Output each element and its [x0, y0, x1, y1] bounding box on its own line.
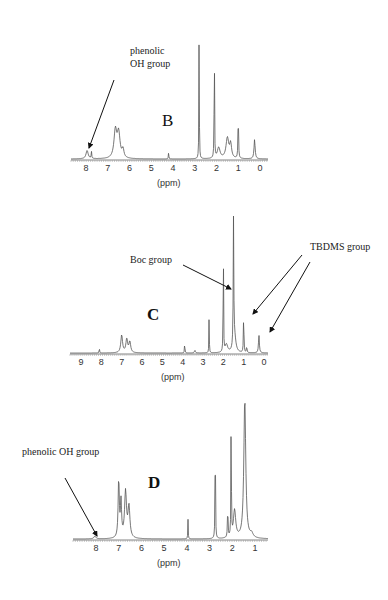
spectrum-panel-b: 876543210 phenolic OH group B (ppm) [71, 45, 268, 188]
x-tick-label: 1 [236, 163, 241, 173]
x-tick-label: 8 [99, 357, 104, 367]
x-tick-label: 1 [252, 543, 257, 553]
x-axis-title-c: (ppm) [161, 372, 185, 382]
arrow-icon [270, 262, 310, 332]
x-tick-label: 7 [119, 357, 124, 367]
x-tick-label: 6 [139, 543, 144, 553]
arrow-icon [65, 478, 97, 536]
panel-label-b: B [162, 111, 173, 130]
panel-label-c: C [147, 305, 159, 324]
x-tick-label: 6 [127, 163, 132, 173]
x-tick-label: 1 [241, 357, 246, 367]
x-tick-label: 5 [160, 357, 165, 367]
x-axis-title-b: (ppm) [157, 178, 181, 188]
x-tick-label: 2 [230, 543, 235, 553]
annotation-phenolic-b-line2: OH group [130, 58, 170, 69]
x-tick-label: 5 [162, 543, 167, 553]
x-axis-d: 87654321 [73, 540, 268, 553]
x-tick-label: 8 [83, 163, 88, 173]
panel-label-d: D [148, 473, 160, 492]
spectrum-trace-d [73, 403, 268, 539]
x-tick-label: 3 [207, 543, 212, 553]
x-tick-label: 2 [221, 357, 226, 367]
x-tick-label: 5 [149, 163, 154, 173]
arrow-icon [89, 80, 114, 148]
arrow-icon [253, 255, 302, 314]
x-tick-label: 2 [214, 163, 219, 173]
x-axis-b: 876543210 [71, 160, 268, 173]
nmr-figure: 876543210 phenolic OH group B (ppm) 9876… [0, 0, 388, 600]
x-tick-label: 4 [184, 543, 189, 553]
x-tick-label: 3 [192, 163, 197, 173]
x-tick-label: 8 [93, 543, 98, 553]
x-tick-label: 6 [139, 357, 144, 367]
x-axis-c: 9876543210 [70, 354, 268, 367]
x-axis-title-d: (ppm) [157, 558, 181, 568]
annotation-boc: Boc group [130, 254, 172, 265]
annotation-phenolic-b-line1: phenolic [130, 45, 165, 56]
x-tick-label: 4 [170, 163, 175, 173]
spectrum-panel-c: 9876543210 Boc group TBDMS group C (ppm) [70, 216, 370, 382]
x-tick-label: 4 [180, 357, 185, 367]
x-tick-label: 9 [78, 357, 83, 367]
spectrum-panel-d: 87654321 phenolic OH group D (ppm) [22, 403, 268, 568]
annotation-phenolic-d: phenolic OH group [22, 446, 99, 457]
spectrum-trace-c [70, 216, 268, 353]
x-tick-label: 3 [200, 357, 205, 367]
x-tick-label: 7 [105, 163, 110, 173]
x-tick-label: 7 [116, 543, 121, 553]
annotation-tbdms: TBDMS group [310, 241, 370, 252]
x-tick-label: 0 [261, 357, 266, 367]
x-tick-label: 0 [257, 163, 262, 173]
